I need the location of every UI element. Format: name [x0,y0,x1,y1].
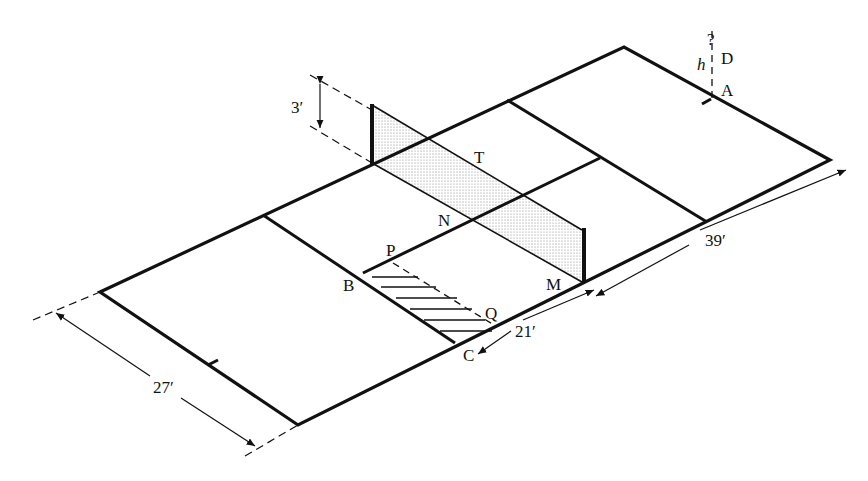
dim-service-length: 21′ [515,322,536,341]
dim-width: 27′ [153,378,174,397]
label-h: h [697,55,706,74]
label-T: T [474,148,485,167]
label-C: C [463,346,474,365]
label-question: ? [707,30,715,49]
center-mark-near [208,360,218,365]
label-M: M [546,275,561,294]
tennis-court-diagram: ? D h A T N P B M Q C 3′ 27′ 21′ 39′ [0,0,868,481]
dashed-line-PQ [393,263,494,325]
net [372,105,582,282]
left-service-line [263,215,455,343]
dim-net-height: 3′ [291,98,303,117]
width-dimension [33,292,298,456]
label-N: N [438,211,450,230]
label-A: A [721,81,734,100]
net-height-dimension [310,75,372,163]
label-Q: Q [485,304,497,323]
label-D: D [721,49,733,68]
center-mark-far [702,99,711,104]
label-P: P [386,241,395,260]
label-B: B [343,276,354,295]
dim-half-length: 39′ [705,231,726,250]
